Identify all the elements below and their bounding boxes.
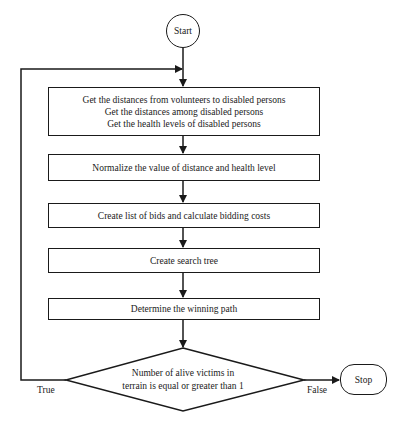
step-line: Get the health levels of disabled person… <box>83 118 286 130</box>
step-normalize: Normalize the value of distance and heal… <box>48 154 320 181</box>
step-line: Get the distances from volunteers to dis… <box>83 94 286 106</box>
true-branch-label: True <box>37 385 55 395</box>
step-line: Determine the winning path <box>131 303 237 315</box>
step-get-distances: Get the distances from volunteers to dis… <box>48 87 320 136</box>
decision-line: Number of alive victims in <box>132 367 234 380</box>
step-create-bids: Create list of bids and calculate biddin… <box>48 203 320 228</box>
step-line: Create search tree <box>150 255 218 267</box>
false-branch-label: False <box>307 385 327 395</box>
stop-label: Stop <box>355 374 372 386</box>
stop-node: Stop <box>340 364 387 395</box>
start-label: Start <box>174 25 192 37</box>
start-node: Start <box>166 14 200 48</box>
decision-node: Number of alive victims in terrain is eq… <box>100 364 266 396</box>
step-search-tree: Create search tree <box>48 248 320 273</box>
decision-line: terrain is equal or greater than 1 <box>122 380 243 393</box>
step-line: Create list of bids and calculate biddin… <box>98 210 270 222</box>
step-winning-path: Determine the winning path <box>48 298 320 320</box>
step-line: Get the distances among disabled persons <box>83 106 286 118</box>
step-line: Normalize the value of distance and heal… <box>92 162 275 174</box>
